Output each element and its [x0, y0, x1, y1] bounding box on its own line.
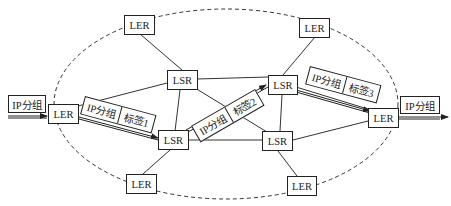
lsr-center-left-node: LSR [158, 130, 189, 150]
lsr-center-right-node: LSR [262, 131, 293, 151]
lsr-upper-right-node: LSR [268, 75, 298, 95]
ler-bottom-right-node: LER [287, 176, 317, 196]
lsr-upper-left-node: LSR [167, 70, 198, 90]
input-ip-packet: IP分组 [8, 95, 46, 113]
diagram-lines [0, 0, 451, 206]
mpls-network-diagram: LER LER LSR LSR LER LSR LSR LER LER LER … [0, 0, 451, 206]
ler-egress-node: LER [368, 108, 399, 128]
ler-top-left-node: LER [124, 15, 155, 35]
ler-bottom-left-node: LER [126, 174, 157, 194]
output-ip-packet: IP分组 [400, 96, 440, 114]
ler-top-right-node: LER [299, 18, 330, 38]
ler-ingress-node: LER [48, 104, 79, 124]
